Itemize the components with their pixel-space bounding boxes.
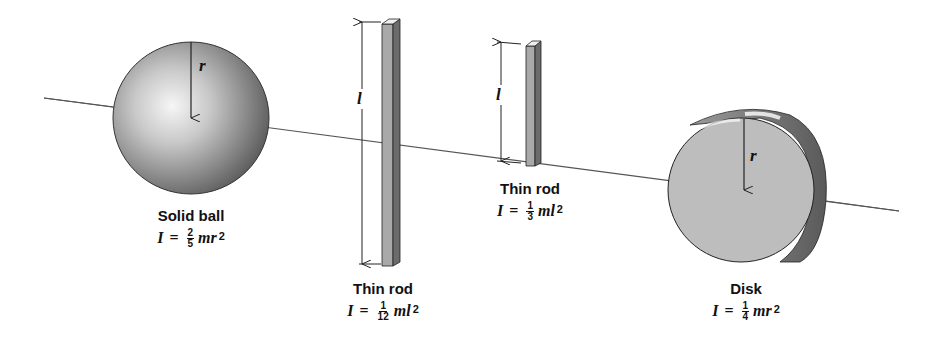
rotation-axis-left <box>44 98 114 107</box>
thin-rod-center-name: Thin rod <box>318 280 448 298</box>
thin-rod-center-formula: I = 112 ml2 <box>347 300 419 322</box>
thin-rod-end-name: Thin rod <box>465 180 595 198</box>
thin-rod-end-formula: I = 13 ml2 <box>497 200 563 222</box>
solid-ball-caption: Solid ball I = 25 mr2 <box>131 207 251 249</box>
solid-ball-name: Solid ball <box>131 207 251 225</box>
rod-center-length-label: l <box>355 89 364 109</box>
rod-end-length-label: l <box>494 85 503 105</box>
thin-rod-end-shape <box>497 41 541 166</box>
thin-rod-center-caption: Thin rod I = 112 ml2 <box>318 280 448 322</box>
ball-radius-label: r <box>199 56 206 76</box>
disk-name: Disk <box>686 280 806 298</box>
disk-formula: I = 14 mr2 <box>712 300 780 322</box>
disk-shape <box>668 109 826 262</box>
disk-radius-label: r <box>750 146 757 166</box>
solid-ball-shape <box>113 42 269 194</box>
disk-caption: Disk I = 14 mr2 <box>686 280 806 322</box>
solid-ball-formula: I = 25 mr2 <box>157 227 225 249</box>
thin-rod-end-caption: Thin rod I = 13 ml2 <box>465 180 595 222</box>
rotation-axis-right <box>826 201 899 211</box>
